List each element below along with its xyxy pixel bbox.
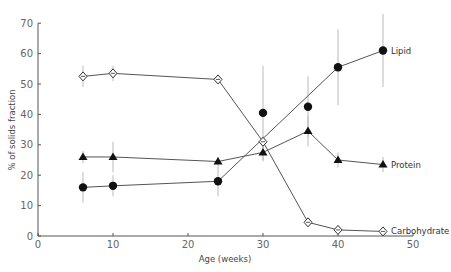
circle-marker-icon: [214, 177, 222, 185]
circle-marker-icon: [334, 63, 342, 71]
x-axis-label: Age (weeks): [199, 254, 252, 264]
x-tick-label: 30: [257, 239, 270, 250]
triangle-marker-icon: [304, 127, 313, 134]
circle-marker-icon: [109, 182, 117, 190]
axes: 01020304050010203040506070: [20, 18, 419, 250]
circle-marker-icon: [379, 46, 387, 54]
triangle-marker-icon: [109, 152, 118, 160]
y-tick-label: 20: [20, 170, 33, 181]
line-chart: 01020304050010203040506070 CarbohydrateP…: [0, 0, 451, 272]
circle-marker-icon: [259, 109, 267, 117]
triangle-marker-icon: [259, 148, 268, 156]
circle-marker-icon: [304, 103, 312, 111]
x-tick-label: 50: [407, 239, 420, 250]
series-markers: [79, 46, 388, 236]
y-tick-label: 70: [20, 18, 33, 29]
series-labels: CarbohydrateProteinLipid: [391, 46, 449, 237]
x-tick-label: 40: [332, 239, 345, 250]
x-tick-label: 10: [107, 239, 120, 250]
series-label-lipid: Lipid: [391, 46, 411, 56]
x-tick-label: 0: [35, 239, 41, 250]
x-tick-label: 20: [182, 239, 195, 250]
y-axis-label: % of solids fraction: [7, 89, 17, 170]
error-bars: [83, 14, 383, 236]
series-label-protein: Protein: [391, 160, 421, 170]
triangle-marker-icon: [79, 152, 88, 160]
y-tick-label: 10: [20, 200, 33, 211]
y-tick-label: 30: [20, 139, 33, 150]
y-tick-label: 40: [20, 109, 33, 120]
y-tick-label: 60: [20, 48, 33, 59]
y-tick-label: 50: [20, 79, 33, 90]
series-label-carbohydrate: Carbohydrate: [391, 226, 449, 236]
circle-marker-icon: [79, 183, 87, 191]
y-tick-label: 0: [27, 231, 33, 242]
